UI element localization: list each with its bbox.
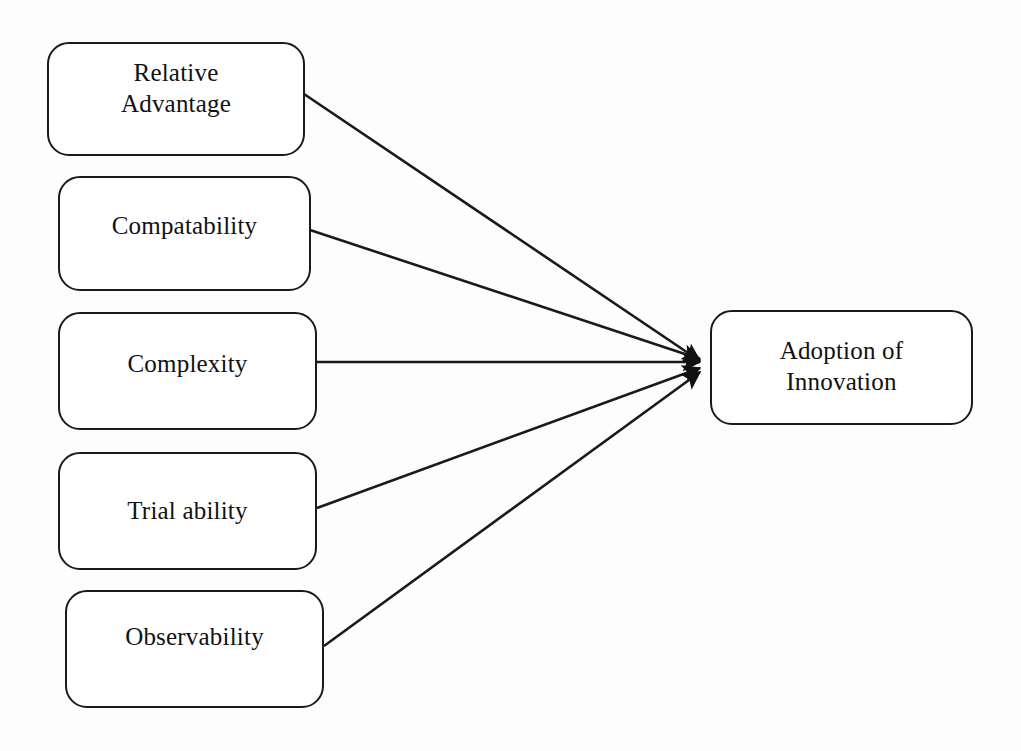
edge-trial-ability-to-adoption	[317, 368, 700, 508]
edge-compatability-to-adoption	[310, 230, 700, 359]
node-complexity[interactable]: Complexity	[58, 312, 317, 430]
edge-relative-advantage-to-adoption	[304, 94, 700, 361]
node-label-compatability: Compatability	[112, 178, 258, 289]
node-label-observability: Observability	[125, 592, 264, 706]
node-label-relative-advantage: Relative Advantage	[121, 44, 231, 154]
node-label-adoption-of-innovation: Adoption of Innovation	[780, 312, 904, 423]
node-label-complexity: Complexity	[127, 314, 247, 428]
node-adoption-of-innovation[interactable]: Adoption of Innovation	[710, 310, 973, 425]
diagram-canvas: Relative Advantage Compatability Complex…	[0, 0, 1021, 751]
edge-observability-to-adoption	[324, 372, 700, 646]
node-relative-advantage[interactable]: Relative Advantage	[47, 42, 305, 156]
node-label-trial-ability: Trial ability	[127, 454, 247, 568]
node-observability[interactable]: Observability	[65, 590, 324, 708]
node-trial-ability[interactable]: Trial ability	[58, 452, 317, 570]
node-compatability[interactable]: Compatability	[58, 176, 311, 291]
